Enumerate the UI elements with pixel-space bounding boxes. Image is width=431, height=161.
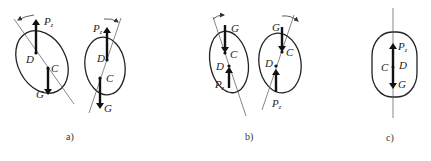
label-p-sub: z xyxy=(99,29,103,35)
label-p-sub: z xyxy=(404,47,408,53)
point-c xyxy=(280,50,283,53)
rotation-arrow-icon xyxy=(104,19,118,22)
label-d: D xyxy=(264,57,273,69)
point-c xyxy=(223,51,226,54)
svg-text:Pz: Pz xyxy=(214,78,225,91)
label-g: G xyxy=(272,21,280,33)
figure-b-right: G C D Pz xyxy=(255,15,305,110)
stability-diagram: Pz D C G Pz D C G a) G C D Pz xyxy=(0,0,431,161)
body-outline xyxy=(255,30,305,95)
symmetry-axis xyxy=(14,19,74,104)
label-d: D xyxy=(215,60,224,72)
label-d: D xyxy=(96,52,105,64)
label-g: G xyxy=(104,102,112,114)
point-d xyxy=(34,51,37,54)
label-c: C xyxy=(381,61,389,73)
rotation-arrow-icon xyxy=(213,15,224,19)
figure-b-left: G C D Pz xyxy=(205,15,253,116)
body-outline xyxy=(372,32,417,97)
label-d: D xyxy=(398,59,407,71)
label-c: C xyxy=(230,48,238,60)
label-c: C xyxy=(106,72,114,84)
figure-c: Pz C D G xyxy=(372,8,417,118)
label-g: G xyxy=(398,78,406,90)
figure-a-right: Pz D C G xyxy=(81,18,129,114)
svg-text:Pz: Pz xyxy=(397,40,408,53)
label-g: G xyxy=(231,22,239,34)
caption-b: b) xyxy=(245,131,253,143)
point-d xyxy=(227,64,230,67)
caption-a: a) xyxy=(66,131,74,143)
svg-text:Pz: Pz xyxy=(43,15,54,28)
svg-text:Pz: Pz xyxy=(92,22,103,35)
figure-a-left: Pz D C G xyxy=(5,15,78,104)
label-p-sub: z xyxy=(50,22,54,28)
point-c xyxy=(98,76,101,79)
point-d xyxy=(105,58,108,61)
point-d xyxy=(274,64,277,67)
rotation-arrow-icon xyxy=(282,16,298,21)
label-d: D xyxy=(25,53,34,65)
label-p-sub: z xyxy=(278,104,282,110)
caption-c: c) xyxy=(386,132,394,144)
label-c: C xyxy=(286,46,294,58)
svg-text:Pz: Pz xyxy=(271,97,282,110)
point-c xyxy=(46,66,49,69)
point-c-d xyxy=(391,65,394,68)
rotation-arrow-icon xyxy=(18,15,34,20)
label-g: G xyxy=(36,88,44,100)
label-c: C xyxy=(51,62,59,74)
